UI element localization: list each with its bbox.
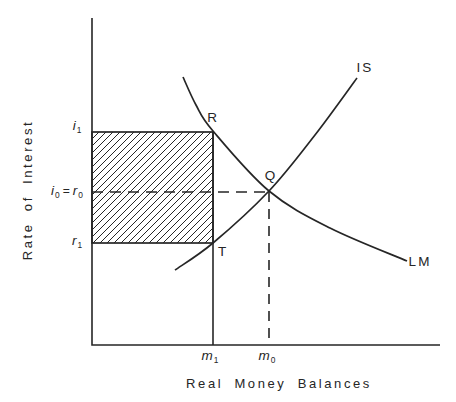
ytick-i1-base: i xyxy=(73,118,76,133)
xtick-m1-base: m xyxy=(202,348,213,363)
ytick-i0r0: i0=r0 xyxy=(51,184,83,199)
lm-curve-label: LM xyxy=(409,255,432,269)
shaded-region xyxy=(92,132,213,243)
ytick-r0-base: r xyxy=(73,183,78,198)
xtick-m1: m1 xyxy=(202,349,219,364)
xtick-m0-sub: 0 xyxy=(271,355,276,365)
y-axis-title: Rate of Interest xyxy=(21,120,34,260)
lm-curve xyxy=(183,77,407,261)
equals-sign: = xyxy=(63,184,70,198)
ytick-i1-sub: 1 xyxy=(77,125,82,135)
ytick-i0-sub: 0 xyxy=(55,190,60,200)
ytick-r1-sub: 1 xyxy=(77,240,82,250)
ytick-r1: r1 xyxy=(72,234,82,249)
is-curve-label: IS xyxy=(357,61,374,75)
point-label-r: R xyxy=(207,111,217,125)
ytick-i0-base: i xyxy=(51,183,54,198)
xtick-m1-sub: 1 xyxy=(214,355,219,365)
xtick-m0-base: m xyxy=(259,348,270,363)
islm-diagram: Rate of Interest Real Money Balances i1 … xyxy=(0,0,456,402)
ytick-r1-base: r xyxy=(72,233,77,248)
diagram-canvas xyxy=(0,0,456,402)
xtick-m0: m0 xyxy=(259,349,276,364)
ytick-i1: i1 xyxy=(73,119,82,134)
x-axis-title: Real Money Balances xyxy=(186,377,372,390)
ytick-r0-sub: 0 xyxy=(78,190,83,200)
point-label-q: Q xyxy=(265,169,276,183)
point-label-t: T xyxy=(218,245,226,259)
